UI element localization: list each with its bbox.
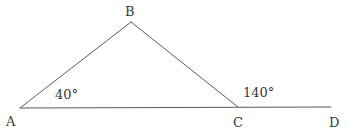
segment-bc [131, 22, 238, 107]
vertex-label-a: A [5, 114, 16, 129]
angle-label-exterior-c: 140° [243, 85, 274, 100]
geometry-diagram: A B C D 40° 140° [0, 0, 348, 131]
vertex-label-d: D [329, 115, 339, 130]
vertex-label-b: B [125, 4, 135, 19]
geometry-canvas: A B C D 40° 140° [0, 0, 348, 131]
vertex-label-c: C [233, 115, 243, 130]
angle-label-interior-a: 40° [55, 87, 78, 102]
segment-ad-baseline [20, 107, 331, 108]
